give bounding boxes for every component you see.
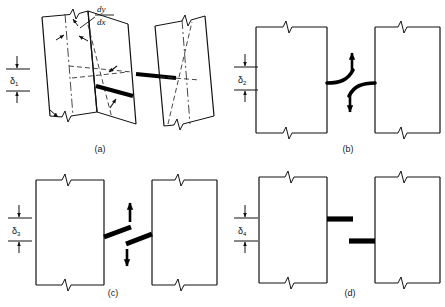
panel-b-caption: (b) [343,144,354,154]
delta2-label: δ2 [238,75,247,86]
dimension-marker-delta4: δ4 [234,205,258,253]
delta1-label: δ1 [10,76,19,87]
panel-d-left-block [259,171,327,289]
panel-b: δ2 [234,21,440,154]
panel-b-right-block [375,21,440,139]
panel-a: δ1 [6,4,214,154]
panel-d: δ4 (d) [234,171,440,298]
panel-c-caption: (c) [108,288,119,298]
panel-a-middle-block [69,11,136,124]
panel-b-left-block [256,21,327,139]
panel-a-connector-bar-left [96,66,133,108]
delta3-label: δ3 [12,226,21,237]
panel-c: δ3 (c) [8,174,217,298]
dx-label: dx [97,17,106,27]
panel-a-caption: (a) [95,144,106,154]
panel-d-horizontal-bars [327,219,375,241]
dimension-marker-delta1: δ1 [6,56,30,103]
dimension-marker-delta2: δ2 [234,54,258,102]
figure-canvas: δ1 [0,0,445,307]
panel-d-caption: (d) [345,288,356,298]
panel-a-slope-annotation: dy dx [80,4,114,28]
dimension-marker-delta3: δ3 [8,205,32,253]
panel-c-right-block [152,174,217,291]
panel-b-curved-connectors [327,53,375,112]
delta4-label: δ4 [238,226,247,237]
dy-label: dy [97,4,106,14]
panel-d-right-block [375,171,440,289]
panel-c-sloped-bars [104,203,152,266]
panel-a-right-block [136,15,214,130]
panel-c-left-block [36,174,104,291]
technical-figure: δ1 [0,0,445,307]
